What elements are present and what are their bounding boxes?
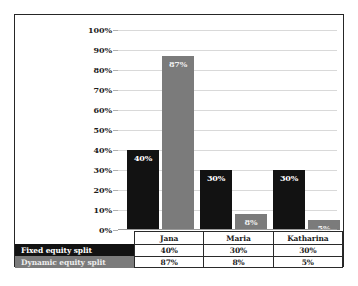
y-axis-tick-label: 50% [22, 125, 112, 135]
table-cell: 30% [203, 244, 272, 256]
table-header-row: JanaMariaKatharina [15, 231, 343, 244]
table-cell: 30% [273, 244, 343, 256]
chart-frame: 100%90%80%70%60%50%40%30%20%10%0% 40%87%… [14, 14, 344, 267]
bar-jana-fixed[interactable]: 40% [127, 150, 159, 230]
bar-value-label: 30% [273, 173, 305, 183]
y-axis-tick-label: 40% [22, 145, 112, 155]
table-corner-cell [15, 231, 134, 244]
bar-value-label: 87% [162, 59, 194, 69]
bar-value-label: 30% [200, 173, 232, 183]
plot-wrapper: 100%90%80%70%60%50%40%30%20%10%0% 40%87%… [15, 15, 343, 231]
plot-area: 40%87%30%8%30%5% [118, 15, 337, 231]
table-cell: 5% [273, 256, 343, 268]
bar-group-maria: 30%8% [191, 30, 264, 230]
table-cell: 87% [134, 256, 203, 268]
y-axis-tick-label: 80% [22, 65, 112, 75]
y-axis-tick-label: 30% [22, 165, 112, 175]
table-cell: 8% [203, 256, 272, 268]
table-cell: Jana [134, 231, 203, 244]
y-axis-tick-label: 90% [22, 45, 112, 55]
axis-baseline [118, 229, 337, 230]
bar-maria-dynamic[interactable]: 8% [235, 214, 267, 230]
y-axis-tick-label: 60% [22, 105, 112, 115]
table-row: Dynamic equity split87%8%5% [15, 256, 343, 268]
bar-katharina-fixed[interactable]: 30% [273, 170, 305, 230]
legend-swatch-dynamic: Dynamic equity split [15, 256, 134, 268]
y-axis-tick-label: 70% [22, 85, 112, 95]
bar-group-katharina: 30%5% [264, 30, 337, 230]
table-cell: 40% [134, 244, 203, 256]
table-cell: Katharina [273, 231, 343, 244]
y-axis-tick-label: 20% [22, 185, 112, 195]
bar-group-jana: 40%87% [118, 30, 191, 230]
bar-jana-dynamic[interactable]: 87% [162, 56, 194, 230]
bar-value-label: 8% [235, 217, 267, 227]
y-axis-tick-label: 10% [22, 205, 112, 215]
data-table: JanaMariaKatharina Fixed equity split40%… [15, 231, 343, 266]
table-cell: Maria [203, 231, 272, 244]
table-row: Fixed equity split40%30%30% [15, 244, 343, 256]
y-axis: 100%90%80%70%60%50%40%30%20%10%0% [15, 15, 118, 231]
bar-maria-fixed[interactable]: 30% [200, 170, 232, 230]
bar-value-label: 40% [127, 153, 159, 163]
y-axis-tick-label: 100% [22, 25, 112, 35]
legend-swatch-fixed: Fixed equity split [15, 244, 134, 256]
